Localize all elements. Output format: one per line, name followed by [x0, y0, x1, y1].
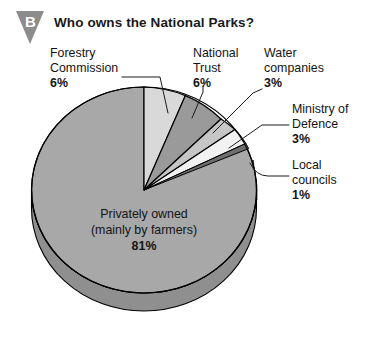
- label-local-percent: 1%: [292, 188, 337, 203]
- label-mod-percent: 3%: [292, 132, 348, 147]
- label-private-line2: (mainly by farmers): [60, 222, 228, 238]
- label-national-trust: National Trust 6%: [193, 46, 238, 91]
- label-private-line1: Privately owned: [60, 206, 228, 222]
- label-ministry-of-defence: Ministry of Defence 3%: [292, 102, 348, 147]
- label-water-line2: companies: [264, 61, 324, 76]
- label-water-percent: 3%: [264, 76, 324, 91]
- label-water-companies: Water companies 3%: [264, 46, 324, 91]
- label-local-councils: Local councils 1%: [292, 158, 337, 203]
- label-mod-line1: Ministry of: [292, 102, 348, 117]
- label-forestry-percent: 6%: [50, 76, 118, 91]
- label-local-line1: Local: [292, 158, 337, 173]
- label-national-trust-line1: National: [193, 46, 238, 61]
- label-private-percent: 81%: [60, 238, 228, 254]
- label-forestry-commission: Forestry Commission 6%: [50, 46, 118, 91]
- label-national-trust-line2: Trust: [193, 61, 238, 76]
- label-forestry-line1: Forestry: [50, 46, 118, 61]
- label-water-line1: Water: [264, 46, 324, 61]
- pie-chart-figure: B Who owns the National Parks?: [0, 0, 366, 345]
- label-forestry-line2: Commission: [50, 61, 118, 76]
- label-national-trust-percent: 6%: [193, 76, 238, 91]
- label-mod-line2: Defence: [292, 117, 348, 132]
- label-privately-owned: Privately owned (mainly by farmers) 81%: [60, 206, 228, 254]
- label-local-line2: councils: [292, 173, 337, 188]
